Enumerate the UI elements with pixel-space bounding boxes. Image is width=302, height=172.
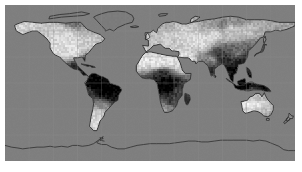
- figure-root: [0, 0, 302, 172]
- bottom-margin: [0, 161, 302, 172]
- corner-notch: [295, 161, 302, 172]
- world-map-raster: [5, 5, 295, 161]
- world-map-plate: [5, 5, 295, 161]
- right-margin: [295, 0, 302, 172]
